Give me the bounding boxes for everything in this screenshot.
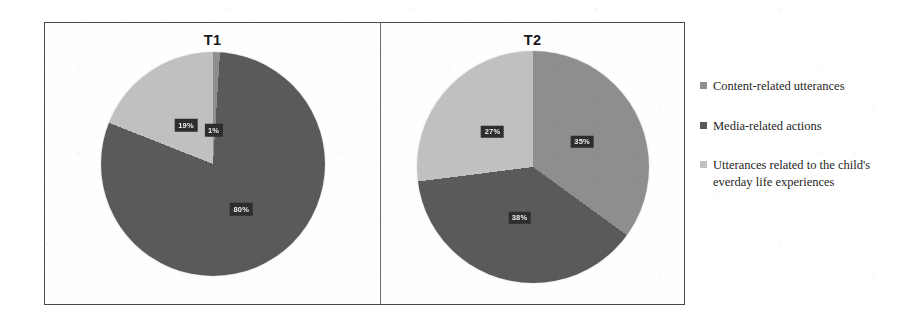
pie-wrap-t1: 1% 80% 19%: [101, 52, 325, 276]
pie-slice-label: 38%: [508, 211, 531, 224]
figure-container: T1 1% 80% 19% T2 35% 38% 27%: [44, 22, 685, 305]
legend-swatch-icon: [700, 82, 707, 89]
pie-slice-label: 80%: [230, 203, 253, 216]
legend-item-label: Media-related actions: [713, 118, 880, 135]
chart-panel-t1: T1 1% 80% 19%: [45, 23, 381, 304]
pie-wrap-t2: 35% 38% 27%: [417, 51, 649, 283]
legend-item: Content-related utterances: [700, 78, 880, 95]
chart-panel-t2: T2 35% 38% 27%: [381, 23, 684, 304]
chart-legend: Content-related utterances Media-related…: [700, 78, 880, 213]
pie-slice-label: 19%: [175, 119, 198, 132]
chart-title-t1: T1: [45, 32, 380, 48]
pie-slice-label: 1%: [204, 124, 222, 137]
pie-slice-label: 27%: [481, 125, 504, 138]
legend-item-label: Utterances related to the child's everda…: [713, 157, 880, 190]
legend-item-label: Content-related utterances: [713, 78, 880, 95]
chart-title-t2: T2: [381, 32, 684, 48]
legend-item: Utterances related to the child's everda…: [700, 157, 880, 190]
pie-chart-t1: 1% 80% 19%: [101, 52, 325, 276]
legend-swatch-icon: [700, 122, 707, 129]
pie-slice-label: 35%: [571, 135, 594, 148]
legend-swatch-icon: [700, 161, 707, 168]
legend-item: Media-related actions: [700, 118, 880, 135]
pie-chart-t2: 35% 38% 27%: [417, 51, 649, 283]
